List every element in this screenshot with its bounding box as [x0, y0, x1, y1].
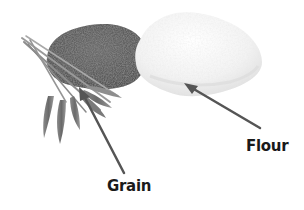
illustration — [0, 0, 304, 210]
grain-label: Grain — [107, 179, 151, 194]
grain-flour-diagram: Grain Flour — [0, 0, 304, 210]
grain-pile — [47, 24, 147, 89]
flour-label: Flour — [246, 139, 288, 154]
flour-pile — [135, 12, 262, 96]
